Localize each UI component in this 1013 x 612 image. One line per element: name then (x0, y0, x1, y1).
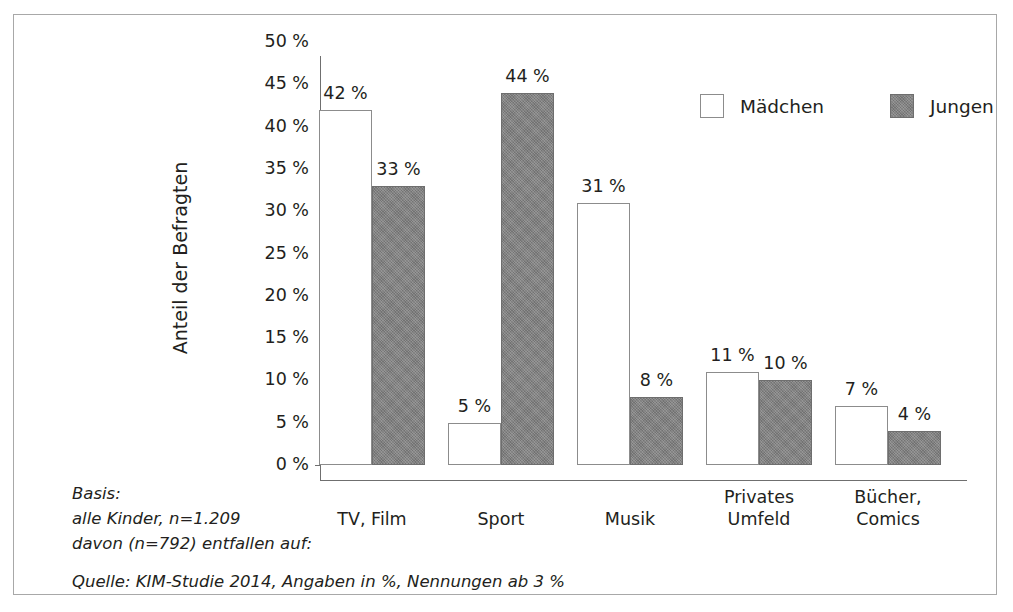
y-axis-tick-40: 40 % (247, 118, 309, 136)
y-axis-tick-20: 20 % (247, 287, 309, 305)
y-axis-tick-25: 25 % (247, 245, 309, 263)
y-axis-tick-10: 10 % (247, 371, 309, 389)
legend-item-jungen[interactable]: Jungen (890, 94, 994, 118)
y-axis-tick-15: 15 % (247, 329, 309, 347)
bar-maedchen-2[interactable] (577, 203, 630, 465)
bar-value-maedchen-1: 5 % (440, 398, 509, 416)
bar-value-jungen-4: 4 % (880, 406, 949, 424)
y-axis-tick-5: 5 % (247, 414, 309, 432)
category-label-4: Bücher, Comics (808, 486, 968, 530)
bar-jungen-2[interactable] (630, 397, 683, 465)
x-axis-line (321, 480, 967, 481)
bar-jungen-1[interactable] (501, 93, 554, 465)
y-axis-tick-45: 45 % (247, 75, 309, 93)
legend-item-maedchen[interactable]: Mädchen (700, 94, 824, 118)
basis-line-2: alle Kinder, n=1.209 (72, 506, 312, 531)
basis-note: Basis: alle Kinder, n=1.209 davon (n=792… (72, 481, 312, 556)
bar-jungen-3[interactable] (759, 380, 812, 465)
bar-value-jungen-1: 44 % (493, 68, 562, 86)
y-axis-title: Anteil der Befragten (168, 133, 192, 383)
bar-value-maedchen-0: 42 % (311, 85, 380, 103)
legend-swatch-maedchen-icon (700, 94, 724, 118)
legend-label-jungen: Jungen (930, 96, 994, 117)
y-axis-tick-30: 30 % (247, 202, 309, 220)
y-axis-tick-35: 35 % (247, 160, 309, 178)
bar-value-jungen-3: 10 % (751, 355, 820, 373)
chart-page: 0 %5 %10 %15 %20 %25 %30 %35 %40 %45 %50… (0, 0, 1013, 612)
bar-value-jungen-2: 8 % (622, 372, 691, 390)
bar-jungen-0[interactable] (372, 186, 425, 465)
basis-line-1: Basis: (72, 481, 312, 506)
chart-frame: 0 %5 %10 %15 %20 %25 %30 %35 %40 %45 %50… (13, 14, 997, 595)
bar-value-maedchen-4: 7 % (827, 381, 896, 399)
y-axis-tick-mark-0 (315, 465, 321, 466)
bar-maedchen-3[interactable] (706, 372, 759, 465)
y-axis-tick-0: 0 % (247, 456, 309, 474)
bar-maedchen-1[interactable] (448, 423, 501, 465)
bar-value-jungen-0: 33 % (364, 161, 433, 179)
legend-label-maedchen: Mädchen (740, 96, 824, 117)
bar-jungen-4[interactable] (888, 431, 941, 465)
chart-legend: Mädchen Jungen (700, 93, 994, 119)
source-note: Quelle: KIM-Studie 2014, Angaben in %, N… (72, 571, 565, 593)
legend-swatch-jungen-icon (890, 94, 914, 118)
bar-value-maedchen-2: 31 % (569, 178, 638, 196)
y-axis-tick-50: 50 % (247, 33, 309, 51)
basis-line-3: davon (n=792) entfallen auf: (72, 531, 312, 556)
